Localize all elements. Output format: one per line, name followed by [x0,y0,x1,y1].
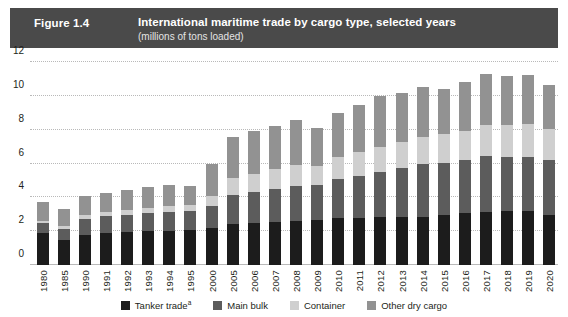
bar-segment-tanker [58,240,70,265]
bar-segment-mainbulk [58,229,70,241]
x-axis-tick-label: 1994 [164,270,175,292]
legend-item-mainbulk[interactable]: Main bulk [213,300,268,311]
chart-bar[interactable] [121,190,133,265]
bar-segment-tanker [290,221,302,265]
chart-bar[interactable] [79,196,91,265]
chart-bar[interactable] [100,193,112,265]
chart-bar[interactable] [227,137,239,265]
bar-segment-mainbulk [480,156,492,211]
bar-segment-tanker [501,211,513,265]
chart-bar[interactable] [332,113,344,265]
bar-segment-mainbulk [353,176,365,218]
bar-segment-otherdry [142,187,154,207]
chart-bar[interactable] [311,128,323,266]
x-axis-tick-label: 2012 [375,270,386,292]
bar-segment-tanker [142,231,154,265]
figure-number: Figure 1.4 [34,17,89,29]
legend-item-otherdry[interactable]: Other dry cargo [367,300,447,311]
bar-segment-otherdry [227,137,239,178]
legend-label: Other dry cargo [381,300,447,311]
bar-segment-container [459,131,471,160]
x-axis-tick-label: 1990 [80,270,91,292]
x-axis-tick-label: 1991 [101,270,112,292]
bar-segment-otherdry [163,185,175,206]
bar-segment-container [417,137,429,165]
y-axis-tick-label: 2 [0,214,24,225]
x-axis-tick-label: 1993 [143,270,154,292]
x-axis-tick-label: 2017 [481,270,492,292]
y-axis-tick-label: 10 [0,79,24,90]
bar-segment-container [269,169,281,189]
chart-bar[interactable] [459,82,471,265]
chart-bar[interactable] [417,87,429,265]
bar-segment-otherdry [374,96,386,147]
bar-segment-tanker [227,224,239,265]
chart-bar[interactable] [374,96,386,265]
bar-segment-otherdry [311,128,323,166]
chart-bar[interactable] [480,74,492,265]
x-axis-tick-label: 2015 [439,270,450,292]
bar-segment-tanker [543,215,555,265]
bar-segment-mainbulk [459,160,471,214]
bar-segment-mainbulk [501,157,513,211]
x-axis-tick-label: 2008 [291,270,302,292]
x-axis-tick-label: 2005 [228,270,239,292]
bar-segment-otherdry [121,190,133,210]
legend-item-container[interactable]: Container [290,300,345,311]
x-axis-tick-label: 2007 [270,270,281,292]
y-axis-tick-label: 8 [0,113,24,124]
bar-segment-container [438,134,450,162]
chart-bar[interactable] [438,89,450,265]
chart-bar[interactable] [290,120,302,265]
y-axis-tick-label: 6 [0,147,24,158]
bar-segment-mainbulk [142,213,154,231]
chart-bar[interactable] [58,209,70,265]
chart-plot-wrapper: 024681012 198019851990199119921993199419… [0,52,568,272]
x-axis-tick-label: 2014 [418,270,429,292]
bar-segment-otherdry [417,87,429,137]
bar-segment-mainbulk [206,206,218,228]
bar-segment-mainbulk [121,215,133,232]
chart-bar[interactable] [353,105,365,265]
x-axis-tick-label: 1995 [185,270,196,292]
bar-segment-tanker [522,211,534,265]
chart-bar[interactable] [396,93,408,265]
chart-bar[interactable] [163,185,175,265]
x-axis-tick-label: 1980 [38,270,49,292]
bar-segment-container [332,157,344,179]
bar-segment-container [206,196,218,206]
bar-segment-container [353,152,365,176]
bar-segment-otherdry [522,75,534,124]
bar-segment-tanker [311,220,323,265]
chart-bar[interactable] [37,202,49,265]
y-axis-tick-label: 12 [0,45,24,56]
bar-segment-otherdry [459,82,471,131]
chart-bar[interactable] [501,76,513,265]
x-axis-tick-label: 2006 [249,270,260,292]
chart-bar[interactable] [543,85,555,265]
chart-bar[interactable] [142,187,154,265]
bar-segment-mainbulk [248,192,260,223]
figure-root: Figure 1.4 International maritime trade … [0,0,568,317]
bar-segment-container [374,147,386,172]
bar-segment-container [290,165,302,186]
bar-segment-otherdry [438,89,450,135]
chart-bar[interactable] [184,186,196,265]
bar-segment-otherdry [184,186,196,205]
chart-bar[interactable] [206,164,218,265]
bar-segment-container [480,125,492,156]
legend-item-tanker[interactable]: Tanker tradea [121,299,191,311]
legend-swatch-icon [290,301,299,310]
x-axis-tick-label: 2013 [397,270,408,292]
chart-bar[interactable] [248,131,260,265]
chart-bar[interactable] [269,126,281,265]
chart-bar[interactable] [522,75,534,265]
x-axis-tick-label: 2010 [333,270,344,292]
bar-segment-tanker [163,231,175,265]
bar-segment-otherdry [58,209,70,226]
bar-segment-tanker [79,235,91,265]
chart-plot-area: 024681012 [30,62,558,265]
bar-segment-tanker [396,217,408,265]
bar-segment-otherdry [248,131,260,173]
bar-segment-tanker [184,230,196,265]
